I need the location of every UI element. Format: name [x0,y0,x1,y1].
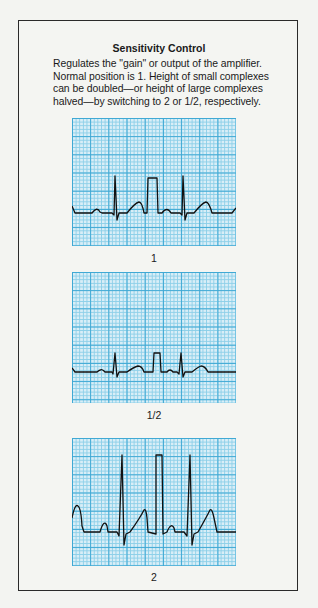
description-line: can be doubled—or height of large comple… [53,83,283,96]
strip-label-gain-2: 2 [72,571,236,583]
description-line: Regulates the "gain" or output of the am… [53,58,283,71]
description-line: halved—by switching to 2 or 1/2, respect… [53,96,283,109]
panel-title: Sensitivity Control [0,42,318,54]
ecg-trace-gain-1 [72,118,236,246]
description-line: Normal position is 1. Height of small co… [53,71,283,84]
ecg-strip-gain-2 [72,438,236,566]
strip-label-gain-half: 1/2 [72,409,236,421]
ecg-trace-gain-2 [72,438,236,566]
ecg-strip-gain-1 [72,118,236,246]
ecg-strip-gain-half [72,272,236,403]
panel-description: Regulates the "gain" or output of the am… [53,58,283,108]
ecg-trace-gain-half [72,272,236,403]
strip-label-gain-1: 1 [72,252,236,264]
